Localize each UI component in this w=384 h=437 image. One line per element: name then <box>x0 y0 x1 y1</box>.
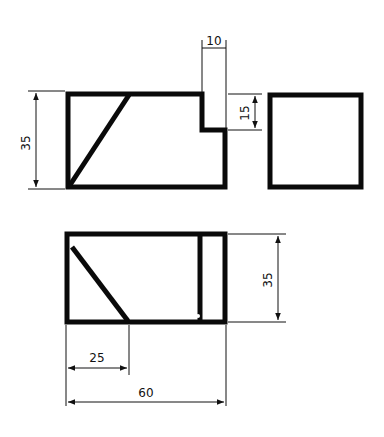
dim-label-plan-partial: 25 <box>89 351 104 365</box>
plan-view <box>67 234 225 322</box>
plan-view-mark <box>196 314 200 318</box>
dim-label-front-height: 35 <box>19 135 33 150</box>
dim-label-overall-width: 60 <box>138 386 153 400</box>
dim-label-plan-depth: 35 <box>261 272 275 287</box>
dim-label-notch-height: 15 <box>238 105 252 120</box>
orthographic-drawing: 35 10 15 35 25 60 <box>0 0 384 437</box>
front-elevation-view <box>68 94 225 187</box>
dimension-plan-partial <box>66 325 129 406</box>
dimension-front-height <box>28 91 65 189</box>
dimension-plan-depth <box>228 234 286 322</box>
dimension-notch-width <box>202 40 226 128</box>
side-view <box>270 95 361 187</box>
dim-label-notch-width: 10 <box>206 34 221 48</box>
